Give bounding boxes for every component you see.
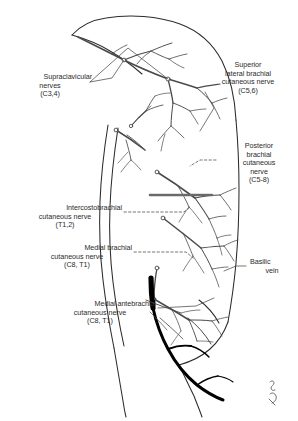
artist-monogram <box>269 381 276 405</box>
label-posterior-brachial-cutaneous-nerve: Posterior brachial cutaneous nerve (C5-8… <box>225 142 293 185</box>
leader-posterior-brachial <box>190 160 216 166</box>
posterior-brachial-cutaneous-nerve <box>155 170 236 255</box>
label-medial-antebrachial-cutaneous-nerve: Medial antebrachial cutaneous nerve (C8,… <box>44 300 156 326</box>
label-medial-brachial-cutaneous-nerve: Medial brachial cutaneous nerve (C8, T1) <box>22 244 132 270</box>
label-line: (C5-8) <box>225 176 293 185</box>
label-intercostobrachial-cutaneous-nerve: Intercostobrachial cutaneous nerve (T1,2… <box>8 204 122 230</box>
label-line: vein <box>250 267 294 276</box>
upper-arm-nerve-branches <box>114 93 170 172</box>
label-line: (C8, T1) <box>44 317 156 326</box>
leader-intercostobrachial <box>124 207 190 212</box>
label-line: (T1,2) <box>8 221 122 230</box>
label-line: (C5,6) <box>205 87 291 96</box>
label-superior-lateral-brachial-cutaneous-nerve: Superior lateral brachial cutaneous nerv… <box>205 61 291 95</box>
label-basilic-vein: Basilic vein <box>250 258 294 275</box>
label-line: (C3,4) <box>8 90 92 99</box>
intercostobrachial-cutaneous-nerve <box>150 195 238 287</box>
anatomical-figure: Supraclavicular nerves (C3,4) Superior l… <box>0 0 298 421</box>
basilic-vein <box>151 278 233 400</box>
medial-brachial-cutaneous-nerve <box>152 266 228 345</box>
label-line: (C8, T1) <box>22 261 132 270</box>
label-supraclavicular-nerves: Supraclavicular nerves (C3,4) <box>8 73 92 99</box>
leader-supraclavicular <box>90 60 124 82</box>
leader-medial-brachial <box>134 252 193 258</box>
